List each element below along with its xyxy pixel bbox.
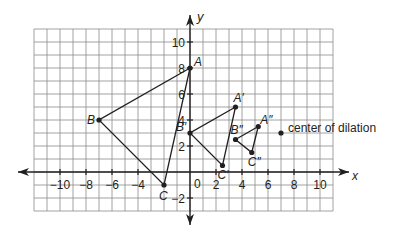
x-tick-label: −8 [79,178,93,192]
vertex-label: C′ [218,168,230,182]
dilation-diagram: xy −10−8−6−4246810108642−20 ABCA′B′C′A″B… [0,0,400,238]
vertex-label: B [87,113,95,127]
vertex-label: A″ [259,113,273,127]
center-point [278,130,283,135]
vertex-point [161,182,166,187]
vertex-label: B′ [176,120,187,134]
center-of-dilation: center of dilation [278,121,376,136]
vertex-point [187,130,192,135]
origin-label: 0 [194,177,201,191]
y-tick-label: −2 [171,192,185,206]
center-of-dilation-label: center of dilation [288,121,376,135]
vertex-point [96,117,101,122]
x-tick-label: 10 [313,178,327,192]
vertex-point [187,65,192,70]
x-tick-label: −4 [131,178,145,192]
x-axis-label: x [351,169,359,183]
vertex-label: A [193,55,202,69]
vertex-point [233,137,238,142]
x-tick-label: 8 [291,178,298,192]
y-axis-label: y [196,9,205,24]
x-tick-label: −10 [50,178,71,192]
vertex-label: C″ [248,155,262,169]
vertex-label: A′ [233,91,245,105]
x-tick-label: 6 [265,178,272,192]
x-tick-label: 4 [239,178,246,192]
vertex-label: B″ [231,123,244,137]
vertex-point [233,104,238,109]
y-tick-label: 2 [178,140,185,154]
coordinate-plane-figure: xy −10−8−6−4246810108642−20 ABCA′B′C′A″B… [0,0,400,238]
vertex-label: C [159,189,168,203]
y-tick-label: 10 [172,36,186,50]
x-tick-label: −6 [105,178,119,192]
